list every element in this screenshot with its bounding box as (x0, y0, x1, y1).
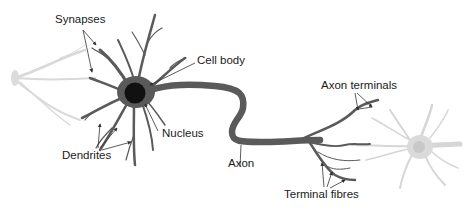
left-faded-neuron (11, 45, 95, 125)
label-nucleus: Nucleus (162, 128, 204, 140)
nucleus-shape (125, 83, 146, 104)
right-faded-neuron (352, 105, 460, 188)
label-axon: Axon (228, 158, 254, 170)
label-synapses: Synapses (55, 14, 106, 26)
label-dendrites: Dendrites (62, 150, 111, 162)
label-terminal-fibres: Terminal fibres (284, 189, 359, 201)
neuron-diagram (0, 0, 471, 210)
label-axon-terminals: Axon terminals (321, 80, 397, 92)
label-cell-body: Cell body (197, 55, 245, 67)
